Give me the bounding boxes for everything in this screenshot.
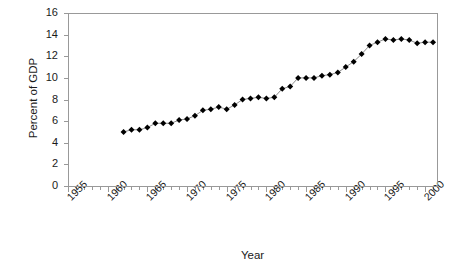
data-point-marker	[422, 39, 428, 45]
series-line	[124, 39, 433, 132]
data-point-marker	[382, 36, 388, 42]
data-point-marker	[184, 116, 190, 122]
data-point-marker	[327, 72, 333, 78]
data-point-marker	[208, 106, 214, 112]
data-point-marker	[319, 73, 325, 79]
data-point-marker	[200, 107, 206, 113]
data-point-marker	[152, 120, 158, 126]
data-point-marker	[343, 64, 349, 70]
data-point-marker	[406, 37, 412, 43]
data-point-marker	[144, 125, 150, 131]
data-point-marker	[335, 69, 341, 75]
data-point-marker	[128, 127, 134, 133]
data-point-marker	[263, 95, 269, 101]
data-point-marker	[160, 120, 166, 126]
data-point-marker	[224, 106, 230, 112]
data-point-marker	[390, 37, 396, 43]
data-point-marker	[240, 97, 246, 103]
data-point-marker	[176, 117, 182, 123]
data-point-marker	[311, 75, 317, 81]
data-point-marker	[374, 39, 380, 45]
data-point-marker	[192, 113, 198, 119]
data-point-marker	[398, 36, 404, 42]
data-point-marker	[216, 104, 222, 110]
data-point-marker	[168, 120, 174, 126]
data-point-marker	[232, 102, 238, 108]
data-series-plot	[0, 0, 451, 269]
data-point-marker	[136, 127, 142, 133]
data-point-marker	[303, 75, 309, 81]
data-point-marker	[414, 40, 420, 46]
data-point-marker	[121, 129, 127, 135]
data-point-marker	[255, 94, 261, 100]
data-point-marker	[248, 95, 254, 101]
data-point-marker	[430, 39, 436, 45]
chart-container: Percent of GDP Year 0246810121416 195519…	[0, 0, 451, 269]
